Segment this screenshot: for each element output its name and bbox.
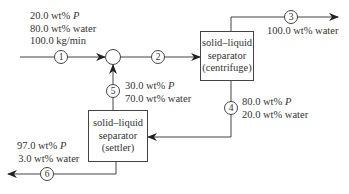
mixer-node bbox=[106, 50, 121, 65]
stream-4-number: 4 bbox=[224, 101, 238, 115]
stream-1-composition-water: 80.0 wt% water bbox=[30, 23, 96, 36]
stream-5-composition-water: 70.0 wt% water bbox=[125, 93, 191, 106]
stream-3-composition-water: 100.0 wt% water bbox=[267, 25, 338, 38]
stream-1-composition-p: 20.0 wt% P bbox=[30, 10, 96, 23]
stream-1-label: 20.0 wt% P 80.0 wt% water 100.0 kg/min bbox=[30, 10, 96, 48]
centrifuge-label-line1: solid–liquid bbox=[202, 37, 252, 50]
stream-5-composition-p: 30.0 wt% P bbox=[125, 80, 191, 93]
stream-4-label: 80.0 wt% P 20.0 wt% water bbox=[242, 96, 308, 121]
stream-1-flowrate: 100.0 kg/min bbox=[30, 35, 96, 48]
centrifuge-unit: solid–liquid separator (centrifuge) bbox=[200, 31, 254, 81]
centrifuge-label-line3: (centrifuge) bbox=[202, 62, 252, 75]
stream-6-composition-p: 97.0 wt% P bbox=[17, 140, 79, 153]
stream-1-number: 1 bbox=[54, 50, 68, 64]
stream-5-label: 30.0 wt% P 70.0 wt% water bbox=[125, 80, 191, 105]
settler-label-line1: solid–liquid bbox=[93, 117, 143, 130]
stream-3-number: 3 bbox=[284, 10, 298, 24]
stream-2-number: 2 bbox=[151, 50, 165, 64]
settler-label-line2: separator bbox=[99, 130, 137, 143]
centrifuge-label-line2: separator bbox=[208, 50, 246, 63]
settler-unit: solid–liquid separator (settler) bbox=[88, 110, 148, 162]
stream-4-composition-water: 20.0 wt% water bbox=[242, 109, 308, 122]
stream-6-number: 6 bbox=[40, 167, 54, 181]
stream-6-composition-water: 3.0 wt% water bbox=[17, 153, 79, 166]
stream-4-composition-p: 80.0 wt% P bbox=[242, 96, 308, 109]
stream-6-label: 97.0 wt% P 3.0 wt% water bbox=[17, 140, 79, 165]
stream-5-number: 5 bbox=[106, 84, 120, 98]
settler-label-line3: (settler) bbox=[102, 142, 135, 155]
stream-3-label: 100.0 wt% water bbox=[267, 25, 338, 38]
